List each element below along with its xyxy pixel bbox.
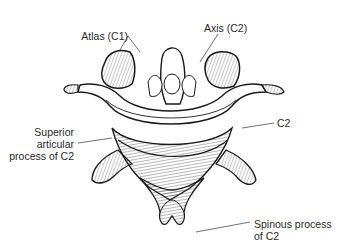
label-atlas: Atlas (C1): [48, 30, 128, 42]
label-spinous-1: Spinous process: [254, 218, 332, 230]
leader-spinous: [196, 222, 250, 232]
label-superior-articular-1: Superior: [0, 126, 74, 138]
leader-atlas-a: [128, 36, 140, 52]
label-superior-articular-2: articular: [0, 138, 74, 150]
label-c2: C2: [277, 117, 290, 129]
dens: [148, 48, 196, 104]
label-axis: Axis (C2): [204, 22, 247, 34]
label-superior-articular-3: process of C2: [0, 150, 74, 162]
label-spinous-2: of C2: [254, 230, 279, 242]
leader-superior-articular: [78, 138, 112, 143]
leader-c2: [242, 123, 274, 128]
